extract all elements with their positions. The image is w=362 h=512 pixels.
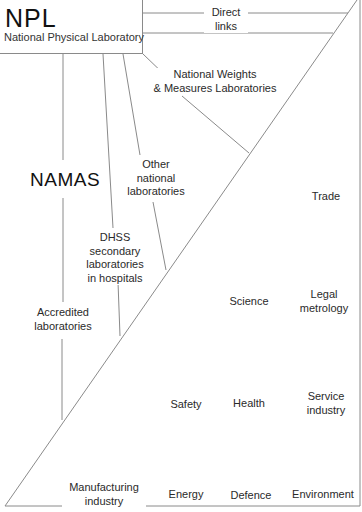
npl-other-line (123, 54, 140, 155)
direct-links-line2: links (204, 20, 248, 34)
manufacturing-line2: industry (62, 495, 146, 509)
other-line3: laboratories (126, 185, 186, 199)
npl-dhss-line (103, 54, 113, 228)
npl-box: NPL National Physical Laboratory (0, 0, 143, 54)
legal-line1: Legal (296, 288, 352, 302)
direct-links-label: Direct links (204, 6, 248, 33)
npl-acronym: NPL (5, 6, 57, 31)
sector-safety: Safety (166, 398, 206, 412)
sector-defence: Defence (226, 489, 276, 503)
namas-label: NAMAS (30, 167, 100, 193)
sector-trade: Trade (306, 190, 346, 204)
dhss-line1: DHSS (84, 231, 146, 245)
other-line1: Other (126, 158, 186, 172)
service-line1: Service (302, 390, 350, 404)
manufacturing-line1: Manufacturing (62, 481, 146, 495)
nwml-label: National Weights & Measures Laboratories (148, 68, 282, 95)
dhss-line4: in hospitals (84, 272, 146, 286)
other-national-label: Other national laboratories (126, 158, 186, 199)
nwml-line1: National Weights (148, 68, 282, 82)
sector-energy: Energy (164, 488, 208, 502)
nwml-diagonal-line (182, 96, 249, 153)
sector-environment: Environment (290, 488, 356, 502)
npl-full-name: National Physical Laboratory (4, 31, 144, 43)
accredited-line2: laboratories (32, 320, 94, 334)
dhss-line2: secondary (84, 245, 146, 259)
accredited-line1: Accredited (32, 306, 94, 320)
nwml-line2: & Measures Laboratories (148, 82, 282, 96)
dhss-label: DHSS secondary laboratories in hospitals (84, 231, 146, 285)
direct-links-line1: Direct (204, 6, 248, 20)
dhss-diagonal-line (118, 282, 120, 336)
other-line2: national (126, 172, 186, 186)
sector-manufacturing: Manufacturing industry (62, 481, 146, 508)
sector-service-industry: Service industry (302, 390, 350, 417)
service-line2: industry (302, 404, 350, 418)
legal-line2: metrology (296, 302, 352, 316)
other-diagonal-line (153, 202, 166, 270)
accredited-label: Accredited laboratories (32, 306, 94, 333)
sector-legal-metrology: Legal metrology (296, 288, 352, 315)
dhss-line3: laboratories (84, 258, 146, 272)
sector-science: Science (226, 295, 272, 309)
sector-health: Health (228, 397, 270, 411)
